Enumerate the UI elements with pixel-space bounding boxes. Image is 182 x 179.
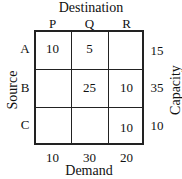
capacity-axis-label: Capacity (168, 60, 182, 120)
cell-b-q: 25 (71, 80, 108, 96)
destination-title: Destination (0, 0, 182, 16)
grid-line (36, 69, 142, 70)
cell-c-r: 10 (108, 120, 145, 136)
capacity-a: 15 (147, 43, 167, 59)
capacity-b: 35 (147, 80, 167, 96)
row-header-c: C (18, 117, 32, 133)
row-header-b: B (18, 80, 32, 96)
cell-b-r: 10 (108, 80, 145, 96)
cell-a-p: 10 (34, 41, 71, 57)
grid-line (36, 107, 142, 108)
row-header-a: A (18, 41, 32, 57)
capacity-c: 10 (147, 118, 167, 134)
cell-a-q: 5 (71, 41, 108, 57)
demand-axis-label: Demand (34, 163, 144, 179)
